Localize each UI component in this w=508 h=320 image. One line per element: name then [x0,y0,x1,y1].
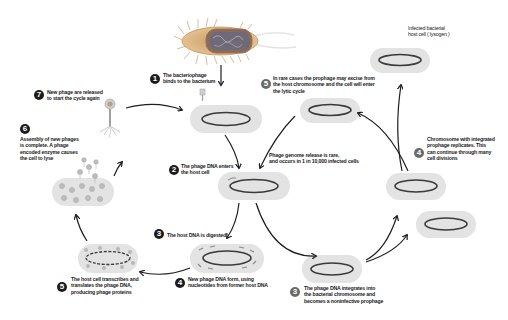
cell-lytic-attach [190,105,262,133]
step-text-line: to start the cycle again [47,95,103,101]
cell-lysogen [370,48,430,73]
cell-lytic-dna-enters [218,172,290,200]
step-badge-lysogenic-3: 3 [290,287,300,297]
step-text-line: the host cell [181,169,233,175]
step-text-line: the lytic cycle [273,88,375,94]
step-text-line: the cell to lyse [20,155,79,161]
arrow-digest-to-transcribe [140,268,190,274]
step-text-line: becomes a noninfective prophage [304,298,383,304]
step-badge-lysogenic-4: 4 [414,148,424,158]
step-text-line: binds to the bacterium [163,78,215,84]
genome-release-note: Phage genome release is rare, and occurs… [269,152,359,165]
arrow-enter-to-integrate [256,203,316,256]
note-line: and occurs in 1 in 10,000 infected cells [269,158,359,164]
step-text-lytic-4: New phage DNA form, using nucleotides fr… [188,276,268,289]
step-text-line: can continue through many [427,149,495,155]
step-text-lytic-1: The bacteriophage binds to the bacterium [163,72,215,85]
step-text-line: translates the phage DNA, [71,282,138,288]
step-badge-lytic-3: 3 [154,229,164,239]
cell-lytic-lyse [52,158,114,206]
cell-lysogenic-integrate [302,255,362,283]
step-badge-lytic-1: 1 [150,74,160,84]
step-text-lytic-2: The phage DNA enters the host cell [181,163,233,176]
step-text-line: prophage replicates. This [427,142,495,148]
cell-lysogenic-replicate-a [386,173,446,200]
phage-cycle-diagram: 1 The bacteriophage binds to the bacteri… [0,0,508,320]
step-text-line: encoded enzyme causes [20,149,79,155]
step-badge-lytic-4: 4 [175,278,185,288]
step-text-lytic-3: The host DNA is digested [167,232,226,238]
step-text-lytic-6: Assembly of new phages is complete. A ph… [20,136,79,161]
attaching-phage [200,89,205,101]
step-text-line: the host chromosome and the cell will en… [273,81,375,87]
arrow-transcribe-to-lyse [76,215,87,241]
step-badge-lytic-7: 7 [34,90,44,100]
step-text-lysogenic-4: Chromosome with integrated prophage repl… [427,136,495,161]
cell-lytic-transcribe [78,244,138,273]
step-badge-lytic-6: 6 [20,124,30,134]
step-text-line: producing phage proteins [71,289,138,295]
arrow-integrate-to-replicate-a [366,216,397,260]
step-text-line: the bacterial chromosome and [304,291,383,297]
cell-lysogenic-replicate-b [416,211,476,238]
arrow-enter-to-digest [227,203,239,238]
step-text-lysogenic-3: The phage DNA integrates into the bacter… [304,285,383,304]
step-badge-lytic-2: 2 [169,165,179,175]
step-text-line: cell divisions [427,155,495,161]
lysogen-label: Infected bacterial host cell ( lysogen ) [408,25,450,38]
cycle-arrows [76,65,408,274]
released-phage-illustration [100,99,120,138]
step-text-line: nucleotides from former host DNA [188,282,268,288]
cell-lytic-host-digested [190,244,264,273]
step-text-lysogenic-5: In rare cases the prophage may excise fr… [273,75,375,94]
bacterium-illustration [174,18,296,65]
arrow-phage-to-cell [126,104,182,110]
cell-lysogenic-excise [300,98,360,123]
step-text-lytic-7: New phage are released to start the cycl… [47,89,103,102]
arrow-lyse-to-release [114,162,122,176]
step-text-line: The host DNA is digested [167,232,226,238]
step-badge-lytic-5: 5 [57,282,67,292]
lysogen-label-line: host cell ( lysogen ) [408,31,450,37]
step-text-lytic-5: The host cell transcribes and translates… [71,276,138,295]
step-badge-lysogenic-5: 5 [261,79,271,89]
